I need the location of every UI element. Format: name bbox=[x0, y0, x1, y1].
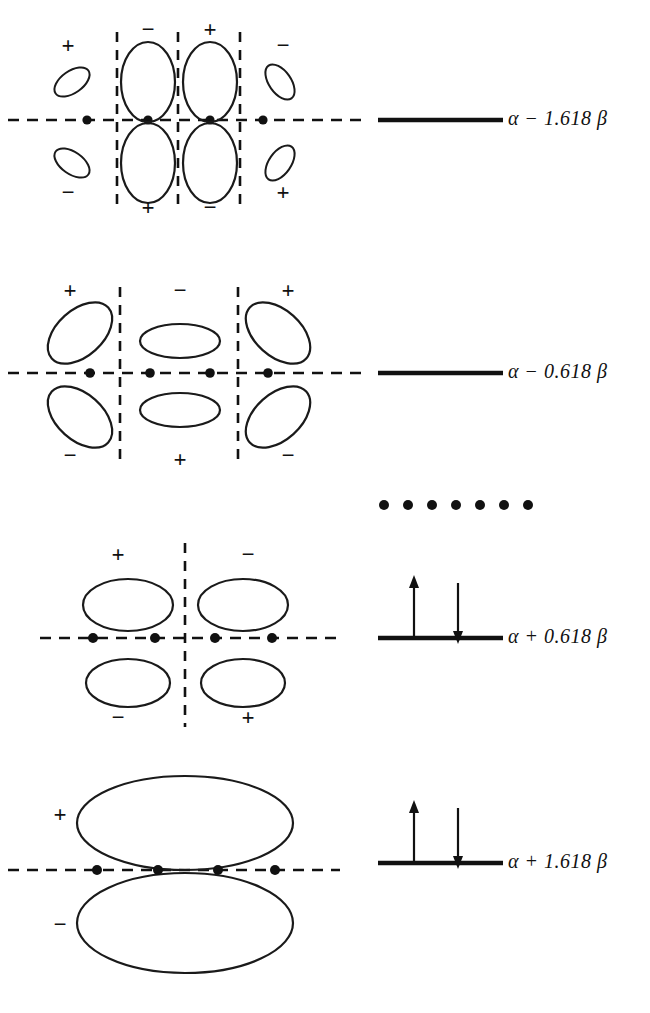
reference-dot bbox=[427, 500, 437, 510]
orbital-svg-psi1: + − bbox=[0, 755, 370, 990]
energy-label-psi2: α + 0.618 β bbox=[508, 625, 607, 648]
energy-level-psi2: α + 0.618 β bbox=[370, 535, 650, 730]
atom-center-1 bbox=[82, 115, 91, 124]
sign-psi4-top-2: − bbox=[141, 17, 154, 42]
sign-psi2-top-2: − bbox=[241, 542, 254, 567]
lobe-left-top bbox=[36, 290, 123, 375]
lobe-right-bottom bbox=[201, 659, 285, 707]
reference-dot bbox=[451, 500, 461, 510]
energy-level-psi3: α − 0.618 β bbox=[370, 255, 650, 475]
sign-psi3-top-3: + bbox=[281, 278, 294, 303]
spin-down-arrow bbox=[453, 808, 463, 869]
sign-psi2-bot-1: − bbox=[111, 705, 124, 730]
sign-psi2-top-1: + bbox=[111, 542, 124, 567]
mo-level-row-psi4: + − + − − + − + α − 1.618 β bbox=[0, 0, 650, 230]
orbital-diagram-psi2: + − − + bbox=[0, 535, 370, 730]
reference-dot bbox=[379, 500, 389, 510]
mo-level-row-psi1: + − α + 1.618 β bbox=[0, 755, 650, 990]
lobe-a1-bottom bbox=[49, 143, 94, 184]
sign-psi2-bot-2: + bbox=[241, 705, 254, 730]
reference-dots-svg bbox=[370, 485, 650, 525]
energy-label-psi1: α + 1.618 β bbox=[508, 850, 607, 873]
atom-center-4 bbox=[263, 368, 273, 378]
atom-center-3 bbox=[210, 633, 220, 643]
sign-psi1-bot: − bbox=[53, 912, 66, 937]
sign-psi4-bot-4: + bbox=[276, 180, 289, 205]
energy-level-psi1: α + 1.618 β bbox=[370, 755, 650, 990]
lobe-right-bottom bbox=[234, 374, 321, 459]
atom-center-1 bbox=[85, 368, 95, 378]
reference-dot bbox=[475, 500, 485, 510]
atom-center-4 bbox=[267, 633, 277, 643]
atom-center-2 bbox=[145, 368, 155, 378]
mo-level-row-psi2: + − − + α + 0.618 β bbox=[0, 535, 650, 730]
atom-center-1 bbox=[88, 633, 98, 643]
lobe-right-top bbox=[234, 290, 321, 375]
spin-up-arrow bbox=[409, 800, 419, 861]
lobe-center-top bbox=[140, 324, 220, 358]
lobe-bottom bbox=[77, 873, 293, 973]
atom-center-2 bbox=[153, 865, 163, 875]
reference-dot bbox=[523, 500, 533, 510]
orbital-svg-psi4: + − + − − + − + bbox=[0, 0, 370, 230]
reference-dot bbox=[403, 500, 413, 510]
spin-up-arrow bbox=[409, 575, 419, 636]
mo-diagram-figure: + − + − − + − + α − 1.618 β bbox=[0, 0, 650, 1013]
lobe-center-bottom bbox=[140, 393, 220, 427]
sign-psi3-top-1: + bbox=[63, 278, 76, 303]
energy-label-psi4: α − 1.618 β bbox=[508, 107, 607, 130]
sign-psi3-bot-3: − bbox=[281, 443, 294, 468]
sign-psi1-top: + bbox=[53, 802, 66, 827]
lobe-left-bottom bbox=[36, 374, 123, 459]
sign-psi4-bot-1: − bbox=[61, 180, 74, 205]
reference-dots bbox=[370, 485, 650, 525]
sign-psi4-top-1: + bbox=[61, 33, 74, 58]
sign-psi3-top-2: − bbox=[173, 278, 186, 303]
sign-psi3-bot-1: − bbox=[63, 443, 76, 468]
spin-down-arrow bbox=[453, 583, 463, 644]
atom-center-4 bbox=[270, 865, 280, 875]
mo-level-row-psi3: + − + − + − α − 0.618 β bbox=[0, 255, 650, 475]
atom-center-3 bbox=[205, 368, 215, 378]
lobe-a4-bottom bbox=[260, 140, 301, 185]
orbital-diagram-psi4: + − + − − + − + bbox=[0, 0, 370, 230]
lobe-a4-top bbox=[260, 59, 301, 104]
orbital-diagram-psi3: + − + − + − bbox=[0, 255, 370, 475]
energy-label-psi3: α − 0.618 β bbox=[508, 360, 607, 383]
orbital-diagram-psi1: + − bbox=[0, 755, 370, 990]
lobe-a3-top bbox=[183, 42, 237, 122]
nonbonding-reference-row bbox=[0, 485, 650, 525]
atom-center-4 bbox=[258, 115, 267, 124]
lobe-top bbox=[77, 776, 293, 870]
lobe-a2-top bbox=[121, 42, 175, 122]
atom-center-1 bbox=[92, 865, 102, 875]
sign-psi4-bot-2: + bbox=[141, 195, 154, 220]
sign-psi4-bot-3: − bbox=[203, 195, 216, 220]
lobe-left-top bbox=[83, 579, 173, 631]
energy-level-psi4: α − 1.618 β bbox=[370, 0, 650, 230]
atom-center-3 bbox=[213, 865, 223, 875]
lobe-a2-bottom bbox=[121, 123, 175, 203]
lobe-a3-bottom bbox=[183, 123, 237, 203]
atom-center-2 bbox=[150, 633, 160, 643]
sign-psi4-top-3: + bbox=[203, 17, 216, 42]
lobe-left-bottom bbox=[86, 659, 170, 707]
lobe-a1-top bbox=[49, 62, 94, 103]
sign-psi4-top-4: − bbox=[276, 33, 289, 58]
lobe-right-top bbox=[198, 579, 288, 631]
reference-dot bbox=[499, 500, 509, 510]
orbital-svg-psi2: + − − + bbox=[0, 535, 370, 730]
orbital-svg-psi3: + − + − + − bbox=[0, 255, 370, 475]
sign-psi3-bot-2: + bbox=[173, 447, 186, 472]
